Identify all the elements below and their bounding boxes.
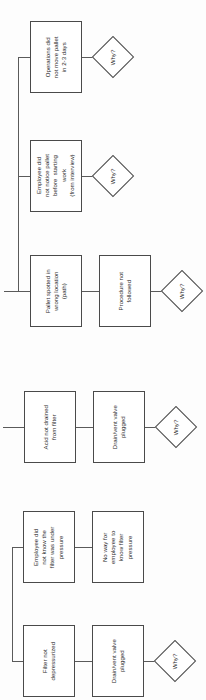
- employee-did-not-know-pressure-label: Employee did not know the filter was und…: [33, 526, 66, 568]
- connector-group3-branch-1: [12, 547, 23, 548]
- pallet-spotted-wrong-location-label: Pallet spotted in wrong location (path): [44, 269, 69, 313]
- why-decision-diamond[interactable]: [161, 270, 203, 312]
- why-decision-diamond[interactable]: [155, 406, 197, 448]
- operations-did-not-move-pallet-box[interactable]: Operations did not move pallet in 2-3 da…: [30, 21, 82, 93]
- procedure-not-followed-box[interactable]: Procedure not followed: [99, 255, 151, 327]
- drain-vent-valve-plugged-label: Drain/vent valve plugged: [111, 405, 127, 449]
- connector-box3-to-box4: [82, 291, 99, 292]
- connector-group1-trunk: [18, 57, 19, 292]
- employee-did-not-know-pressure-box[interactable]: Employee did not know the filter was und…: [23, 511, 75, 583]
- filter-not-depressurized-label: Filter not depressurized: [41, 642, 57, 681]
- employee-did-not-notice-pallet-box[interactable]: Employee did not notice pallet before st…: [30, 140, 82, 212]
- drain-vent-valve-plugged-box[interactable]: Drain/vent valve plugged: [93, 391, 145, 463]
- drain-vent-valve-plugged-box[interactable]: Drain/vent valve plugged: [92, 625, 144, 697]
- connector-group2-inlet: [3, 427, 24, 428]
- no-way-to-know-filter-pressure-label: No way for employee to know filter press…: [102, 530, 135, 563]
- connector-group1-branch-3: [18, 291, 30, 292]
- no-way-to-know-filter-pressure-box[interactable]: No way for employee to know filter press…: [92, 511, 144, 583]
- why-decision-diamond[interactable]: [92, 155, 134, 197]
- connector-group3-branch-2: [12, 661, 23, 662]
- connector-box5-to-box6: [76, 427, 93, 428]
- why-decision-diamond[interactable]: [92, 36, 134, 78]
- pallet-spotted-wrong-location-box[interactable]: Pallet spotted in wrong location (path): [30, 255, 82, 327]
- connector-box9-to-box10: [75, 661, 92, 662]
- connector-group3-trunk: [12, 547, 13, 662]
- why-decision-diamond[interactable]: [154, 640, 196, 682]
- drain-vent-valve-plugged-label: Drain/vent valve plugged: [110, 639, 126, 683]
- employee-did-not-notice-pallet-label: Employee did not notice pallet before st…: [35, 154, 76, 197]
- connector-group1-branch-1: [18, 57, 30, 58]
- flowchart-canvas: Operations did not move pallet in 2-3 da…: [0, 0, 206, 700]
- connector-box7-to-box8: [75, 547, 92, 548]
- connector-group1-inlet: [4, 291, 18, 292]
- procedure-not-followed-label: Procedure not followed: [117, 272, 133, 311]
- operations-did-not-move-pallet-label: Operations did not move pallet in 2-3 da…: [44, 36, 69, 78]
- acid-not-drained-label: Acid not drained from filter: [42, 405, 58, 449]
- filter-not-depressurized-box[interactable]: Filter not depressurized: [23, 625, 75, 697]
- acid-not-drained-box[interactable]: Acid not drained from filter: [24, 391, 76, 463]
